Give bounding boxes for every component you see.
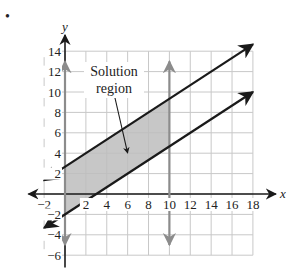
inequality-graph: xy −2246810121416181412108642−2−4−6 Solu…: [0, 0, 298, 269]
svg-text:14: 14: [205, 197, 219, 212]
svg-text:y: y: [60, 19, 68, 34]
svg-text:−2: −2: [47, 207, 61, 222]
svg-text:18: 18: [246, 197, 259, 212]
svg-text:12: 12: [184, 197, 197, 212]
svg-text:4: 4: [55, 146, 62, 161]
svg-text:16: 16: [226, 197, 240, 212]
svg-text:−6: −6: [47, 248, 61, 263]
svg-text:8: 8: [145, 197, 152, 212]
svg-text:−4: −4: [47, 227, 61, 242]
svg-text:8: 8: [55, 105, 62, 120]
svg-text:12: 12: [48, 64, 61, 79]
svg-text:6: 6: [55, 125, 62, 140]
svg-text:region: region: [96, 81, 132, 96]
svg-text:14: 14: [48, 44, 62, 59]
svg-text:2: 2: [83, 197, 90, 212]
svg-text:x: x: [279, 186, 286, 201]
svg-text:4: 4: [104, 197, 111, 212]
svg-text:Solution: Solution: [90, 64, 137, 79]
svg-text:10: 10: [48, 85, 61, 100]
svg-text:6: 6: [124, 197, 131, 212]
svg-text:10: 10: [163, 197, 176, 212]
svg-text:2: 2: [55, 166, 62, 181]
